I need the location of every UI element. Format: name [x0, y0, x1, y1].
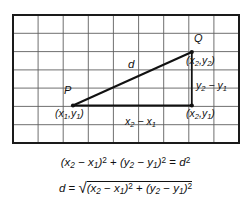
vertical-leg-label: y2 − y1 [196, 80, 227, 92]
equation-squared-form: (x2 − x1)2 + (y2 − y1)2 = d2 [0, 156, 251, 170]
point-q-label: Q [194, 33, 203, 44]
point-q-coordinates: (x2,y2) [186, 55, 215, 67]
distance-formula-figure [0, 0, 251, 201]
hypotenuse-length-label: d [128, 59, 134, 71]
point-p-coordinates: (x1,y1) [55, 108, 84, 120]
equation-distance-formula: d = √(x2 − x1)2 + (y2 − y1)2 [0, 178, 251, 196]
point-r-coordinates: (x2,y1) [186, 108, 215, 120]
point-p-label: P [64, 85, 71, 96]
horizontal-leg-label: x2 − x1 [125, 116, 156, 128]
